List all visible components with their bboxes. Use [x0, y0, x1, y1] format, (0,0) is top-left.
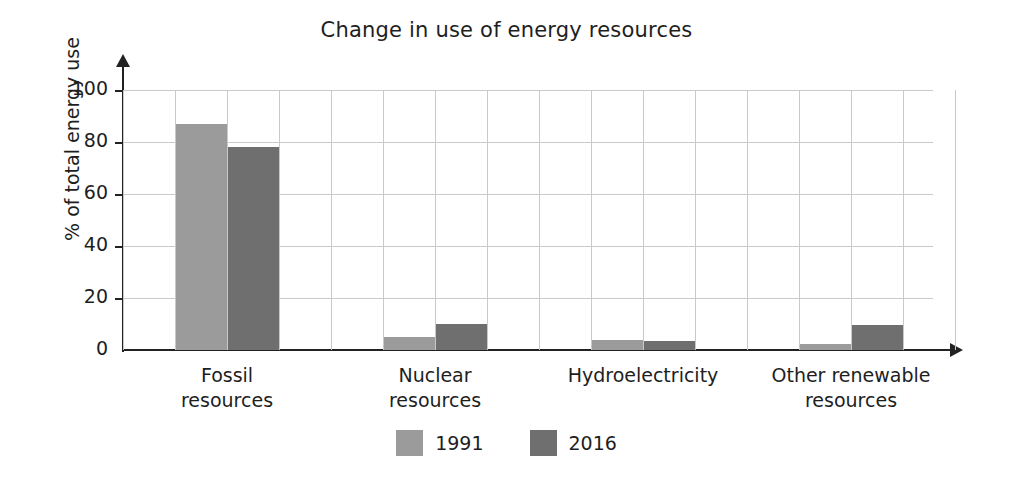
- category-label-line: resources: [325, 388, 545, 413]
- category-label-line: resources: [741, 388, 961, 413]
- y-axis-tick-mark: [115, 194, 123, 196]
- category-label-nuclear-resources: Nuclearresources: [325, 363, 545, 413]
- legend-item-2016[interactable]: 2016: [530, 430, 617, 456]
- gridline-vertical: [851, 90, 852, 350]
- gridline-vertical: [799, 90, 800, 350]
- category-label-other-renewable-resources: Other renewableresources: [741, 363, 961, 413]
- y-axis-tick-label: 60: [48, 181, 108, 203]
- chart-page: Change in use of energy resources % of t…: [0, 0, 1013, 484]
- y-axis-tick-label: 100: [48, 77, 108, 99]
- gridline-vertical: [591, 90, 592, 350]
- category-label-line: Hydroelectricity: [533, 363, 753, 388]
- legend-swatch-icon: [396, 430, 423, 456]
- gridline-vertical: [331, 90, 332, 350]
- plot-area: [123, 90, 955, 350]
- bar-1991-nuclear-resources: [384, 337, 435, 350]
- gridline-vertical: [435, 90, 436, 350]
- bar-2016-hydroelectricity: [644, 341, 695, 350]
- bar-1991-fossil-resources: [176, 124, 227, 350]
- y-axis-tick-mark: [115, 246, 123, 248]
- gridline-vertical: [539, 90, 540, 350]
- y-axis-tick-label: 80: [48, 129, 108, 151]
- gridline-vertical: [695, 90, 696, 350]
- chart-legend: 19912016: [0, 430, 1013, 456]
- y-axis-tick-mark: [115, 142, 123, 144]
- y-axis-tick-label: 40: [48, 233, 108, 255]
- gridline-vertical: [279, 90, 280, 350]
- legend-label: 2016: [569, 432, 617, 454]
- gridline-vertical: [643, 90, 644, 350]
- category-label-line: Fossil: [117, 363, 337, 388]
- legend-item-1991[interactable]: 1991: [396, 430, 483, 456]
- gridline-vertical: [383, 90, 384, 350]
- category-label-hydroelectricity: Hydroelectricity: [533, 363, 753, 388]
- gridline-vertical: [487, 90, 488, 350]
- y-axis-tick-mark: [115, 90, 123, 92]
- gridline-vertical: [123, 90, 124, 350]
- gridline-vertical: [955, 90, 956, 350]
- gridline-vertical: [747, 90, 748, 350]
- bar-1991-hydroelectricity: [592, 340, 643, 350]
- bar-2016-other-renewable-resources: [852, 325, 903, 350]
- y-axis-arrow-icon: [116, 54, 130, 67]
- legend-swatch-icon: [530, 430, 557, 456]
- gridline-horizontal: [123, 90, 933, 91]
- legend-label: 1991: [435, 432, 483, 454]
- y-axis-tick-label: 20: [48, 285, 108, 307]
- bar-2016-nuclear-resources: [436, 324, 487, 350]
- category-label-line: Other renewable: [741, 363, 961, 388]
- bar-2016-fossil-resources: [228, 147, 279, 350]
- bar-1991-other-renewable-resources: [800, 344, 851, 351]
- y-axis-tick-mark: [115, 298, 123, 300]
- gridline-vertical: [903, 90, 904, 350]
- category-label-line: resources: [117, 388, 337, 413]
- chart-title: Change in use of energy resources: [0, 18, 1013, 42]
- category-label-line: Nuclear: [325, 363, 545, 388]
- category-label-fossil-resources: Fossilresources: [117, 363, 337, 413]
- gridline-horizontal: [123, 142, 933, 143]
- y-axis-tick-label: 0: [48, 337, 108, 359]
